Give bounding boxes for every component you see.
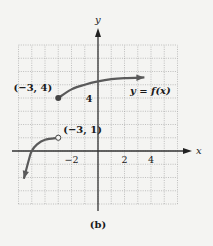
x-axis-label: x (196, 145, 202, 156)
x-tick-label: −2 (64, 154, 78, 165)
x-tick-label: 4 (148, 154, 154, 165)
closed-dot-marker (55, 95, 61, 101)
point-label: (−3, 1) (63, 124, 102, 136)
point-label: (−3, 4) (14, 82, 53, 94)
left-branch-curve (24, 138, 58, 179)
figure-caption: (b) (90, 219, 106, 230)
function-label: y = f(x) (129, 85, 171, 96)
axes: x y (12, 14, 202, 211)
y-axis-label: y (94, 14, 101, 25)
y-axis-arrow-icon (95, 28, 101, 37)
x-axis-arrow-icon (183, 148, 192, 154)
y-tick-label: 4 (86, 93, 93, 104)
curve-arrow-icon (136, 75, 144, 81)
piecewise-function-graph: x y −2244 (−3, 4)(−3, 1)y = f(x) (b) (0, 0, 213, 246)
x-tick-label: 2 (121, 154, 127, 165)
open-circle-marker (56, 135, 61, 140)
